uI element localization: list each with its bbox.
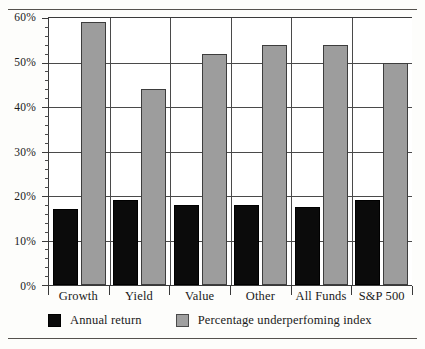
bottom-horizontal-rule: [8, 338, 417, 339]
bar-chart-figure: 60%50%40%30%20%10%0% GrowthYieldValueOth…: [0, 0, 425, 349]
bar-underperforming-index[interactable]: [262, 45, 287, 285]
y-minor-tick: [45, 232, 50, 233]
bar-group: [231, 18, 292, 285]
y-major-tick: [42, 107, 49, 108]
y-minor-tick: [45, 223, 50, 224]
y-minor-tick: [45, 169, 50, 170]
y-minor-tick: [45, 205, 50, 206]
x-axis-label-growth: Growth: [48, 289, 109, 304]
x-axis-label-value: Value: [169, 289, 230, 304]
y-axis-labels: 60%50%40%30%20%10%0%: [0, 17, 46, 286]
y-major-tick: [42, 196, 49, 197]
bar-annual-return[interactable]: [53, 209, 78, 285]
plot-area: [48, 17, 412, 286]
y-tick-label: 0%: [20, 280, 36, 292]
y-minor-tick: [45, 125, 50, 126]
bar-annual-return[interactable]: [295, 207, 320, 285]
bar-group: [49, 18, 110, 285]
bar-annual-return[interactable]: [174, 205, 199, 285]
y-minor-tick: [45, 134, 50, 135]
y-minor-tick: [45, 178, 50, 179]
bar-underperforming-index[interactable]: [383, 63, 408, 286]
top-horizontal-rule: [8, 9, 417, 10]
y-minor-tick: [45, 80, 50, 81]
y-tick-label: 30%: [14, 145, 36, 157]
x-axis-label-all-funds: All Funds: [291, 289, 352, 304]
y-minor-tick: [45, 71, 50, 72]
y-tick-label: 10%: [14, 235, 36, 247]
bar-group: [352, 18, 413, 285]
y-major-tick: [42, 241, 49, 242]
y-minor-tick: [45, 89, 50, 90]
bar-underperforming-index[interactable]: [202, 54, 227, 285]
bar-groups: [49, 18, 412, 285]
x-axis-label-other: Other: [230, 289, 291, 304]
y-minor-tick: [45, 249, 50, 250]
bar-group: [291, 18, 352, 285]
legend-label: Annual return: [70, 313, 142, 328]
y-minor-tick: [45, 54, 50, 55]
bar-annual-return[interactable]: [355, 200, 380, 285]
x-axis-label-s-p-500: S&P 500: [351, 289, 412, 304]
bar-underperforming-index[interactable]: [323, 45, 348, 285]
x-axis-labels: GrowthYieldValueOtherAll FundsS&P 500: [48, 289, 412, 304]
y-tick-label: 40%: [14, 100, 36, 112]
y-tick-label: 50%: [14, 56, 36, 68]
bar-annual-return[interactable]: [113, 200, 138, 285]
x-axis-label-yield: Yield: [109, 289, 170, 304]
bar-underperforming-index[interactable]: [81, 22, 106, 285]
y-minor-tick: [45, 98, 50, 99]
black-square-swatch: [48, 314, 61, 327]
bar-group: [170, 18, 231, 285]
y-major-tick: [42, 18, 49, 19]
bar-annual-return[interactable]: [234, 205, 259, 285]
y-minor-tick: [45, 276, 50, 277]
y-minor-tick: [45, 27, 50, 28]
y-minor-tick: [45, 267, 50, 268]
y-major-tick: [42, 152, 49, 153]
y-minor-tick: [45, 214, 50, 215]
bar-underperforming-index[interactable]: [141, 89, 166, 285]
legend-item[interactable]: Percentage underperfoming index: [176, 313, 372, 328]
y-minor-tick: [45, 258, 50, 259]
y-minor-tick: [45, 116, 50, 117]
y-tick-label: 20%: [14, 190, 36, 202]
legend-label: Percentage underperfoming index: [198, 313, 372, 328]
y-minor-tick: [45, 187, 50, 188]
y-minor-tick: [45, 143, 50, 144]
y-tick-label: 60%: [14, 11, 36, 23]
chart-legend: Annual returnPercentage underperfoming i…: [48, 313, 415, 328]
legend-item[interactable]: Annual return: [48, 313, 142, 328]
x-tick: [412, 286, 413, 295]
y-minor-tick: [45, 160, 50, 161]
y-major-tick: [42, 63, 49, 64]
y-minor-tick: [45, 45, 50, 46]
y-minor-tick: [45, 36, 50, 37]
gray-square-swatch: [176, 314, 189, 327]
bar-group: [110, 18, 171, 285]
